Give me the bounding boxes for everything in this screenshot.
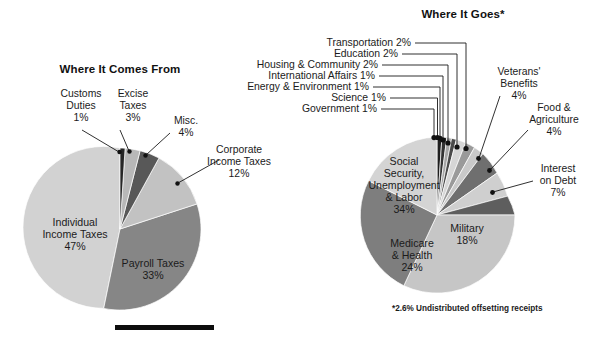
label-excise-taxes-line2: Taxes [119, 100, 146, 111]
leader-dot-food-agriculture [487, 168, 492, 173]
label-housing-community: Housing & Community 2% [257, 59, 378, 70]
leader-dot-customs-duties [117, 150, 121, 154]
label-medicare-pct: 24% [401, 261, 423, 273]
label-science: Science 1% [331, 92, 386, 103]
label-international-affairs: International Affairs 1% [268, 70, 375, 81]
label-interest-line2: on Debt [540, 175, 577, 186]
label-military-pct: 18% [456, 234, 478, 246]
leader-science [390, 98, 438, 138]
label-medicare-line2: & Health [392, 249, 433, 261]
leader-dot-corporate-income-taxes [175, 181, 179, 185]
label-payroll-pct: 33% [142, 269, 164, 281]
label-education: Education 2% [334, 48, 398, 59]
label-interest-line1: Interest [541, 163, 576, 174]
label-military: Military [450, 222, 484, 234]
label-individual-pct: 47% [64, 240, 86, 252]
leader-housing-community [382, 65, 448, 143]
label-food-line2: Agriculture [529, 114, 579, 125]
label-transportation: Transportation 2% [326, 37, 411, 48]
label-misc: Misc. [174, 115, 198, 126]
leader-dot-misc [143, 153, 147, 157]
right-outside-labels-left: Transportation 2% Education 2% Housing &… [247, 37, 411, 114]
label-payroll: Payroll Taxes [122, 257, 185, 269]
leader-food-agriculture [490, 130, 528, 170]
leader-dot-excise-taxes [127, 149, 131, 153]
label-social-pct: 34% [393, 203, 415, 215]
figure-canvas: Where It Comes From [0, 0, 595, 339]
label-food-pct: 4% [546, 126, 561, 137]
label-corporate-line1: Corporate [216, 144, 262, 155]
label-customs-duties-line1: Customs [61, 88, 102, 99]
leader-veterans-benefits [479, 96, 500, 158]
label-interest-pct: 7% [550, 187, 565, 198]
right-pie-slices [360, 137, 515, 293]
right-chart-title: Where It Goes* [421, 8, 505, 20]
leader-dot-government [431, 135, 436, 140]
label-social-line2: Security, [384, 167, 424, 179]
right-chart-footnote: *2.6% Undistributed offsetting receipts [392, 304, 543, 313]
right-left-leader-lines [373, 43, 469, 151]
label-social-line3: Unemployment [368, 179, 439, 191]
leader-dot-interest-on-debt [490, 190, 495, 195]
label-government: Government 1% [302, 103, 377, 114]
label-corporate-pct: 12% [229, 168, 250, 179]
leader-dot-housing-community [445, 140, 450, 145]
leader-dot-transportation [463, 146, 468, 151]
leader-misc [146, 133, 170, 155]
label-individual-line1: Individual [53, 216, 98, 228]
leader-government [381, 109, 434, 138]
label-corporate-line2: Income Taxes [207, 156, 271, 167]
leader-education [402, 54, 457, 147]
leader-dot-education [454, 144, 459, 149]
label-veterans-pct: 4% [511, 90, 526, 101]
label-individual-line2: Income Taxes [42, 228, 107, 240]
label-excise-taxes-pct: 3% [125, 112, 140, 123]
label-excise-taxes-line1: Excise [118, 88, 149, 99]
leader-dot-veterans-benefits [476, 156, 481, 161]
label-social-line4: & Labor [385, 191, 423, 203]
two-pie-chart-figure: Where It Comes From [0, 0, 595, 339]
leader-transportation [415, 43, 466, 149]
label-misc-pct: 4% [178, 127, 193, 138]
label-customs-duties-line2: Duties [66, 100, 95, 111]
bottom-rule-bar [115, 325, 214, 330]
right-outside-labels-right: Veterans' Benefits 4% Food & Agriculture… [498, 66, 580, 198]
label-food-line1: Food & [537, 102, 571, 113]
label-customs-duties-pct: 1% [73, 112, 88, 123]
label-veterans-line1: Veterans' [498, 66, 541, 77]
label-medicare-line1: Medicare [390, 237, 434, 249]
left-chart-title: Where It Comes From [60, 63, 181, 75]
label-veterans-line2: Benefits [500, 78, 538, 89]
label-energy-environment: Energy & Environment 1% [247, 81, 369, 92]
label-social-line1: Social [390, 155, 419, 167]
leader-international-affairs [379, 76, 443, 140]
